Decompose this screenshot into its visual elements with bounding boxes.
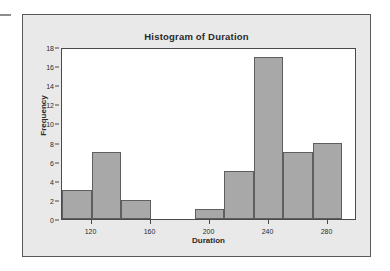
x-axis-title: Duration: [61, 236, 356, 245]
x-tick-mark: [150, 220, 151, 224]
histogram-bar: [254, 57, 284, 219]
y-tick-label: 18: [46, 45, 54, 52]
x-tick-mark: [209, 220, 210, 224]
y-tick-mark: [55, 86, 59, 87]
x-tick-mark: [327, 220, 328, 224]
histogram-bar: [313, 143, 343, 219]
y-tick-label: 8: [50, 140, 54, 147]
chart-panel: Histogram of Duration 024681012141618 Fr…: [22, 14, 371, 257]
y-tick-label: 0: [50, 217, 54, 224]
y-tick-label: 16: [46, 64, 54, 71]
chart-title: Histogram of Duration: [23, 31, 370, 42]
histogram-bar: [283, 152, 313, 219]
histogram-bar: [195, 209, 225, 219]
x-tick-mark: [91, 220, 92, 224]
x-tick-label: 280: [321, 228, 333, 235]
y-tick-mark: [55, 143, 59, 144]
y-tick-mark: [55, 105, 59, 106]
histogram-bar: [92, 152, 122, 219]
x-tick-mark: [268, 220, 269, 224]
y-tick-mark: [55, 200, 59, 201]
x-tick-label: 120: [85, 228, 97, 235]
histogram-bar: [121, 200, 151, 219]
x-tick-label: 200: [203, 228, 215, 235]
y-tick-label: 6: [50, 159, 54, 166]
y-tick-mark: [55, 181, 59, 182]
x-tick-label: 240: [262, 228, 274, 235]
x-tick-label: 160: [144, 228, 156, 235]
y-tick-label: 2: [50, 197, 54, 204]
plot-area: [61, 48, 356, 220]
y-tick-mark: [55, 124, 59, 125]
y-tick-mark: [55, 162, 59, 163]
y-tick-label: 4: [50, 178, 54, 185]
histogram-bar: [62, 190, 92, 219]
histogram-bars: [62, 49, 355, 219]
left-edge-dash: [0, 14, 11, 16]
y-axis-title: Frequency: [39, 76, 48, 156]
y-tick-mark: [55, 48, 59, 49]
y-tick-mark: [55, 220, 59, 221]
histogram-bar: [224, 171, 254, 219]
y-tick-mark: [55, 67, 59, 68]
